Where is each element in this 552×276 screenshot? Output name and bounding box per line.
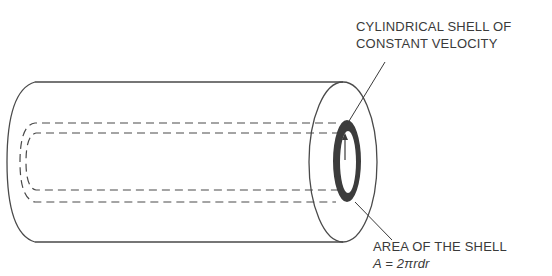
shell-inner-dashed bbox=[26, 133, 340, 190]
shell-label-line2: CONSTANT VELOCITY bbox=[356, 36, 498, 52]
outer-cylinder-outline bbox=[7, 82, 343, 242]
shell-label-line1: CYLINDRICAL SHELL OF bbox=[356, 19, 511, 35]
area-label: AREA OF THE SHELL bbox=[373, 239, 507, 255]
shell-ring bbox=[333, 120, 361, 202]
bottom-leader-line bbox=[355, 202, 392, 240]
top-leader-line bbox=[346, 62, 385, 126]
cylinder-front-face bbox=[309, 82, 377, 242]
area-formula: A = 2πrdr bbox=[373, 256, 430, 272]
